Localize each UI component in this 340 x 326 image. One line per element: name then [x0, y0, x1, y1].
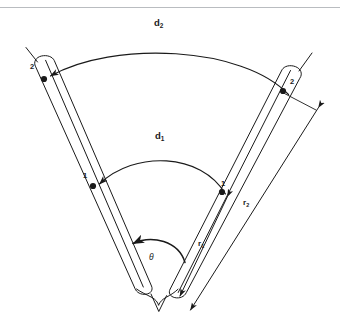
angle-label-theta: θ	[149, 253, 154, 262]
angle-arc-theta	[133, 240, 185, 263]
radius-dimension-r2	[191, 108, 319, 311]
right-probe-outline	[169, 66, 301, 298]
arc-label-d2: d2	[154, 18, 163, 28]
probe-tip-convergence	[137, 289, 179, 312]
radius-label-r2: r2	[243, 199, 249, 207]
inner-arc-d1	[100, 161, 226, 194]
diagram-canvas	[0, 0, 340, 326]
right-probe-body	[169, 66, 301, 298]
point-label-right-outer: 2	[290, 78, 294, 86]
arc-label-d1: d1	[155, 131, 164, 141]
point-label-right-inner: 1	[221, 180, 225, 188]
contact-dot-left-inner	[90, 183, 96, 189]
left-probe-center-seam	[46, 60, 144, 287]
right-probe-lead-wire	[299, 53, 312, 71]
left-probe-body	[35, 56, 152, 295]
figure-root: d2 d1 r2 r1 θ 2 2 1 1	[0, 0, 340, 326]
point-label-left-outer: 2	[30, 63, 34, 71]
left-probe-lead-wire	[26, 48, 38, 63]
contact-dot-left-outer	[41, 76, 47, 82]
right-probe-center-seam	[178, 71, 290, 293]
radius-label-r1: r1	[198, 240, 204, 248]
point-label-left-inner: 1	[83, 172, 87, 180]
radius-extension-line-r2-upper	[285, 94, 317, 111]
left-probe-outline	[35, 56, 152, 295]
outer-arc-d2	[51, 53, 289, 94]
